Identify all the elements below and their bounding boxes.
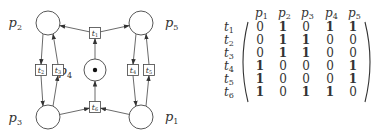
matrix-cell: 0: [326, 59, 334, 73]
matrix-cell: 1: [349, 72, 357, 86]
matrix-cell: 0: [349, 33, 357, 47]
matrix-cell: 0: [302, 72, 310, 86]
matrix-cell: 0: [279, 72, 287, 86]
matrix-cell: 1: [326, 85, 334, 99]
matrix-cell: 1: [256, 85, 264, 99]
incidence-matrix: p1p2p3p4p5 t1t2t3t4t5t6 0101101100011001…: [0, 0, 386, 136]
matrix-cells: 010110110001100100011000110110: [256, 20, 357, 99]
matrix-cell: 0: [279, 59, 287, 73]
matrix-cell: 0: [256, 46, 264, 60]
matrix-cell: 1: [302, 46, 310, 60]
matrix-cell: 0: [326, 46, 334, 60]
matrix-column-headers: p1p2p3p4p5: [255, 6, 361, 21]
matrix-cell: 1: [256, 59, 264, 73]
matrix-cell: 0: [302, 59, 310, 73]
matrix-cell: 0: [256, 33, 264, 47]
matrix-cell: 1: [349, 20, 357, 34]
matrix-cell: 0: [326, 33, 334, 47]
matrix-cell: 0: [326, 72, 334, 86]
matrix-col-header: p3: [301, 6, 314, 21]
matrix-col-header: p4: [325, 6, 338, 21]
matrix-col-header: p5: [348, 6, 361, 21]
matrix-cell: 0: [349, 85, 357, 99]
matrix-cell: 1: [326, 20, 334, 34]
matrix-cell: 0: [279, 85, 287, 99]
matrix-cell: 1: [349, 59, 357, 73]
left-paren: [243, 22, 248, 102]
matrix-row-headers: t1t2t3t4t5t6: [224, 20, 234, 100]
matrix-cell: 1: [302, 85, 310, 99]
matrix-cell: 0: [302, 20, 310, 34]
matrix-cell: 1: [256, 72, 264, 86]
matrix-cell: 1: [279, 20, 287, 34]
matrix-row-header: t6: [224, 85, 234, 100]
right-paren: [365, 22, 370, 102]
matrix-cell: 1: [302, 33, 310, 47]
matrix-col-header: p2: [278, 6, 291, 21]
matrix-cell: 1: [279, 33, 287, 47]
matrix-col-header: p1: [255, 6, 268, 21]
matrix-cell: 0: [349, 46, 357, 60]
matrix-cell: 1: [279, 46, 287, 60]
matrix-cell: 0: [256, 20, 264, 34]
